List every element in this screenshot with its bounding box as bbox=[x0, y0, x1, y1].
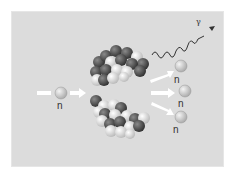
emitted-neutron-3-label: n bbox=[173, 125, 179, 135]
emitted-neutron-1 bbox=[175, 60, 187, 72]
emitted-neutron-3 bbox=[175, 111, 187, 123]
emitted-neutron-2 bbox=[179, 85, 191, 97]
upper-fission-fragment bbox=[90, 45, 149, 86]
outgoing-arrow-middle bbox=[151, 88, 175, 98]
emitted-neutron-1-label: n bbox=[174, 75, 180, 85]
emitted-neutron-2-label: n bbox=[178, 99, 184, 109]
arrow-to-nucleus bbox=[70, 88, 86, 98]
fission-diagram bbox=[0, 0, 233, 175]
incoming-neutron-label: n bbox=[57, 101, 63, 111]
incoming-arrow bbox=[37, 91, 51, 95]
gamma-label: γ bbox=[196, 17, 201, 26]
outgoing-arrow-upper bbox=[150, 71, 174, 83]
incoming-neutron bbox=[55, 87, 67, 99]
lower-fission-fragment bbox=[90, 95, 150, 139]
outgoing-arrow-lower bbox=[151, 102, 174, 115]
gamma-ray bbox=[152, 26, 215, 58]
